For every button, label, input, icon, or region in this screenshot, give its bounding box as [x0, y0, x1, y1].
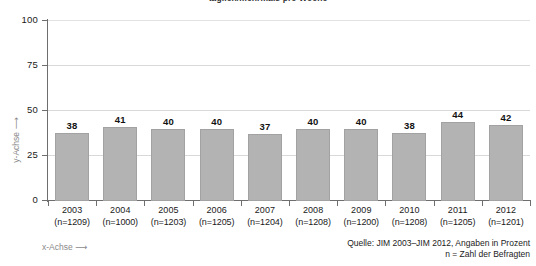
x-axis-categories: 2003(n=1209)2004(n=1000)2005(n=1203)2006…: [48, 205, 530, 233]
y-tick-label-25: 25: [4, 149, 38, 160]
x-category-year: 2010: [385, 205, 433, 217]
y-tick-label-100: 100: [4, 14, 38, 25]
bar-group[interactable]: 37: [241, 20, 289, 201]
bar-value-2007: 37: [241, 121, 289, 132]
bar-2012[interactable]: [489, 125, 523, 201]
bar-2007[interactable]: [248, 134, 282, 201]
x-category-sample-size: (n=1204): [241, 217, 289, 229]
x-category-2006: 2006(n=1205): [193, 205, 241, 228]
x-category-2012: 2012(n=1201): [482, 205, 530, 228]
x-category-2010: 2010(n=1208): [385, 205, 433, 228]
bar-group[interactable]: 40: [144, 20, 192, 201]
bar-value-2009: 40: [337, 116, 385, 127]
chart-canvas: täglich/mehrmals pro Woche 0255075100 y-…: [0, 0, 536, 266]
bar-2009[interactable]: [344, 129, 378, 201]
bar-value-2010: 38: [385, 120, 433, 131]
bar-group[interactable]: 40: [289, 20, 337, 201]
bar-group[interactable]: 40: [337, 20, 385, 201]
bar-value-2008: 40: [289, 116, 337, 127]
x-category-2011: 2011(n=1205): [434, 205, 482, 228]
bar-series: 38414040374040384442: [48, 20, 530, 201]
bar-group[interactable]: 42: [482, 20, 530, 201]
bar-group[interactable]: 38: [48, 20, 96, 201]
source-line-1: Quelle: JIM 2003–JIM 2012, Angaben in Pr…: [347, 238, 530, 249]
x-category-sample-size: (n=1200): [337, 217, 385, 229]
x-axis-label: x-Achse ⟶: [42, 242, 87, 252]
bar-value-2003: 38: [48, 120, 96, 131]
x-category-year: 2003: [48, 205, 96, 217]
bar-value-2005: 40: [144, 116, 192, 127]
bar-2006[interactable]: [200, 129, 234, 201]
bar-value-2004: 41: [96, 114, 144, 125]
x-tick-mark: [530, 201, 531, 206]
x-category-year: 2008: [289, 205, 337, 217]
bar-2003[interactable]: [55, 133, 89, 201]
bar-group[interactable]: 38: [385, 20, 433, 201]
x-category-year: 2012: [482, 205, 530, 217]
x-category-sample-size: (n=1203): [144, 217, 192, 229]
bar-value-2006: 40: [193, 116, 241, 127]
x-category-sample-size: (n=1208): [385, 217, 433, 229]
bar-2004[interactable]: [103, 127, 137, 201]
x-category-2005: 2005(n=1203): [144, 205, 192, 228]
bar-2010[interactable]: [392, 133, 426, 201]
chart-title: täglich/mehrmals pro Woche: [0, 0, 536, 3]
y-tick-label-50: 50: [4, 104, 38, 115]
bar-group[interactable]: 41: [96, 20, 144, 201]
x-category-year: 2005: [144, 205, 192, 217]
x-category-sample-size: (n=1205): [193, 217, 241, 229]
x-category-sample-size: (n=1208): [289, 217, 337, 229]
x-category-year: 2009: [337, 205, 385, 217]
x-category-2009: 2009(n=1200): [337, 205, 385, 228]
x-category-sample-size: (n=1205): [434, 217, 482, 229]
source-line-2: n = Zahl der Befragten: [347, 249, 530, 260]
x-category-sample-size: (n=1000): [96, 217, 144, 229]
x-category-2007: 2007(n=1204): [241, 205, 289, 228]
x-category-2003: 2003(n=1209): [48, 205, 96, 228]
x-category-year: 2007: [241, 205, 289, 217]
bar-2005[interactable]: [151, 129, 185, 201]
bar-2011[interactable]: [441, 122, 475, 201]
bar-2008[interactable]: [296, 129, 330, 201]
x-category-2008: 2008(n=1208): [289, 205, 337, 228]
bar-group[interactable]: 44: [434, 20, 482, 201]
source-note: Quelle: JIM 2003–JIM 2012, Angaben in Pr…: [347, 238, 530, 260]
bar-value-2012: 42: [482, 112, 530, 123]
x-category-sample-size: (n=1209): [48, 217, 96, 229]
bar-value-2011: 44: [434, 109, 482, 120]
x-category-year: 2011: [434, 205, 482, 217]
x-category-year: 2004: [96, 205, 144, 217]
y-tick-label-75: 75: [4, 59, 38, 70]
y-tick-label-0: 0: [4, 194, 38, 205]
x-category-year: 2006: [193, 205, 241, 217]
bar-group[interactable]: 40: [193, 20, 241, 201]
x-category-2004: 2004(n=1000): [96, 205, 144, 228]
y-axis-label: y-Achse ⟶: [11, 100, 21, 180]
x-category-sample-size: (n=1201): [482, 217, 530, 229]
